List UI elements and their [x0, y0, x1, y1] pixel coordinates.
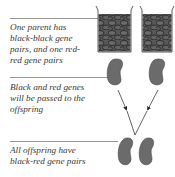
red-bean-jar-icon [140, 6, 174, 52]
arrow-red-gene-icon [148, 90, 159, 110]
offspring-red-bean-icon [139, 138, 153, 165]
inheritance-illustration [0, 0, 175, 177]
arrow-black-gene-icon [118, 90, 127, 110]
red-gene-bean-icon [149, 59, 164, 85]
offspring-black-bean-icon [118, 138, 132, 165]
black-gene-bean-icon [107, 59, 122, 85]
black-bean-jar-icon [96, 6, 133, 52]
